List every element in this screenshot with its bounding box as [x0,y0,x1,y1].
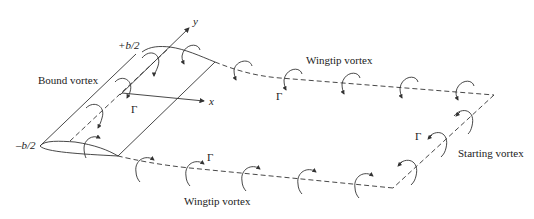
wingtip-vortex-top-line [215,62,494,95]
wingtip-vortex-bottom-line [118,156,393,188]
label-bound-vortex: Bound vortex [38,75,98,86]
label-axis-y: y [193,16,198,27]
label-starting-vortex: Starting vortex [458,148,524,159]
label-axis-x: x [209,96,214,107]
label-gamma-starting: Γ [415,131,421,142]
x-axis [122,93,204,101]
label-wingtip-vortex-top: Wingtip vortex [306,55,372,66]
label-minus-half-span: –b/2 [16,140,36,151]
starting-vortex-line [393,95,494,188]
label-gamma-bottom: Γ [207,152,213,163]
wing-outline [40,47,215,156]
label-plus-half-span: +b/2 [118,40,139,51]
horseshoe-vortex-diagram: Bound vortex +b/2 –b/2 y x Γ Wingtip vor… [0,0,534,219]
diagram-drawing [0,0,534,219]
label-wingtip-vortex-bottom: Wingtip vortex [184,196,250,207]
wingtip-vortex-bottom-circulation-arcs [136,158,373,198]
label-gamma-top: Γ [276,91,282,102]
label-gamma-bound: Γ [131,104,137,115]
